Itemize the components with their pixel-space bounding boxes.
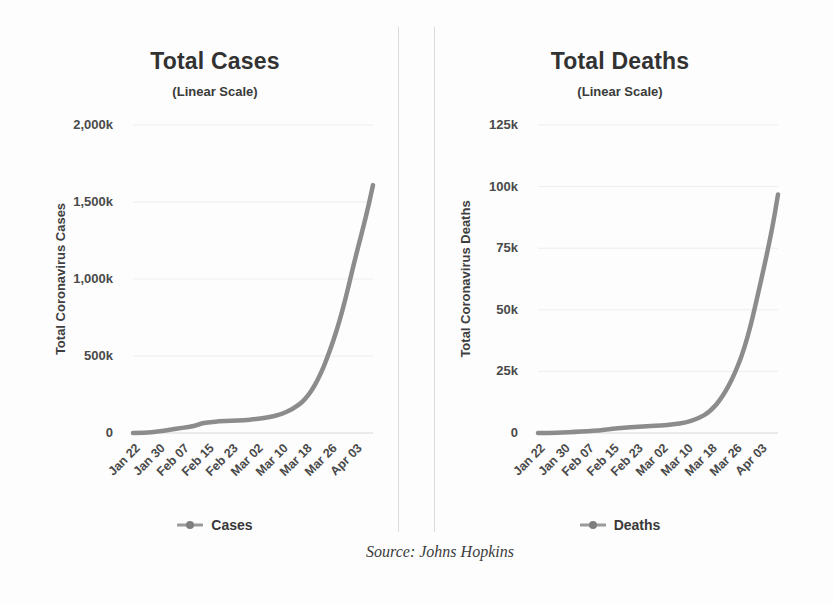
legend-label: Cases [211, 517, 252, 533]
chart-panel-total-deaths: Total Deaths (Linear Scale) Total Corona… [405, 0, 805, 605]
y-axis-title: Total Coronavirus Deaths [458, 200, 473, 357]
y-tick-label: 75k [433, 240, 518, 256]
y-tick-label: 25k [433, 363, 518, 379]
legend-cases[interactable]: Cases [55, 514, 375, 536]
chart-title: Total Deaths [460, 48, 780, 75]
legend-deaths[interactable]: Deaths [460, 514, 780, 536]
y-tick-label: 500k [28, 348, 113, 364]
data-line [538, 195, 778, 434]
y-tick-label: 0 [28, 425, 113, 441]
y-tick-label: 125k [433, 117, 518, 133]
chart-title: Total Cases [55, 48, 375, 75]
legend-line-marker-icon [580, 520, 606, 530]
chart-subtitle: (Linear Scale) [55, 84, 375, 99]
legend-label: Deaths [614, 517, 661, 533]
y-tick-label: 50k [433, 302, 518, 318]
y-tick-label: 1,500k [28, 194, 113, 210]
y-tick-label: 1,000k [28, 271, 113, 287]
plot-svg [133, 125, 373, 433]
y-tick-label: 2,000k [28, 117, 113, 133]
plot-svg [538, 125, 778, 433]
y-tick-label: 100k [433, 179, 518, 195]
chart-panel-total-cases: Total Cases (Linear Scale) Total Coronav… [0, 0, 400, 605]
source-caption: Source: Johns Hopkins [40, 543, 833, 561]
data-line [133, 185, 373, 433]
y-tick-label: 0 [433, 425, 518, 441]
page: Total Cases (Linear Scale) Total Coronav… [0, 0, 833, 605]
chart-subtitle: (Linear Scale) [460, 84, 780, 99]
legend-line-marker-icon [177, 520, 203, 530]
plot-area [538, 125, 778, 433]
plot-area [133, 125, 373, 433]
